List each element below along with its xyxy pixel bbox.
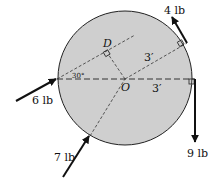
label-radius-lower: 3′: [152, 82, 162, 95]
label-9lb: 9 lb: [187, 147, 208, 160]
label-radius-upper: 3′: [144, 51, 154, 64]
label-d: D: [102, 37, 112, 50]
label-angle: 30°: [72, 72, 84, 80]
label-6lb: 6 lb: [32, 94, 53, 107]
label-4lb: 4 lb: [164, 4, 185, 17]
force-diagram: D O 30° 3′ 3′ 6 lb 7 lb 4 lb 9 lb: [0, 0, 220, 187]
label-o: O: [121, 81, 130, 94]
label-7lb: 7 lb: [54, 151, 75, 164]
